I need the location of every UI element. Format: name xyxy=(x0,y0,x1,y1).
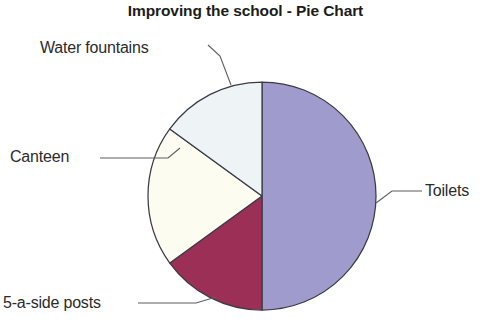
pie-slice-toilets[interactable] xyxy=(262,82,376,310)
leader-line-5-a-side-posts xyxy=(138,297,216,303)
leader-line-water-fountains xyxy=(208,45,231,85)
pie-chart-figure: Improving the school - Pie Chart Water f… xyxy=(0,0,491,326)
pie-label-water-fountains: Water fountains xyxy=(40,39,148,57)
leader-line-toilets xyxy=(376,191,422,203)
pie-slices xyxy=(148,82,376,310)
pie-label-toilets: Toilets xyxy=(425,182,469,200)
pie-label-5-a-side-posts: 5-a-side posts xyxy=(3,294,101,312)
pie-label-canteen: Canteen xyxy=(10,148,69,166)
